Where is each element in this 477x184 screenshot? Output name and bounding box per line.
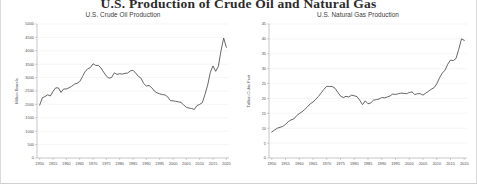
x-tick-label: 2005	[419, 161, 428, 166]
y-tick-label: 40	[262, 36, 267, 41]
y-axis-title: Million Barrels	[14, 78, 19, 104]
y-tick-label: 5	[264, 141, 266, 146]
y-tick-label: 1500	[25, 115, 34, 120]
x-tick-label: 1980	[115, 161, 124, 166]
y-tick-label: 2000	[25, 102, 34, 107]
chart-title-natural-gas: U.S. Natural Gas Production	[239, 11, 477, 18]
series-line	[272, 39, 465, 132]
x-tick-label: 1990	[142, 161, 151, 166]
y-axis-title: Trillion Cubic Feet	[246, 74, 251, 108]
x-tick-label: 1995	[391, 161, 400, 166]
x-tick-label: 1990	[377, 161, 386, 166]
y-tick-label: 30	[262, 66, 267, 71]
chart-panel-crude-oil: U.S. Crude Oil Production 05001000150020…	[7, 11, 239, 184]
x-tick-label: 1970	[89, 161, 98, 166]
chart-natural-gas: 0510152025303540451950195519601965197019…	[239, 18, 477, 180]
x-tick-label: 2000	[405, 161, 414, 166]
x-tick-label: 1955	[49, 161, 58, 166]
chart-crude-oil: 0500100015002000250030003500400045005000…	[7, 18, 239, 180]
x-tick-label: 2010	[432, 161, 441, 166]
x-tick-label: 1975	[102, 161, 111, 166]
x-tick-label: 2015	[209, 161, 218, 166]
chart-title-crude-oil: U.S. Crude Oil Production	[7, 11, 239, 18]
x-tick-label: 1995	[155, 161, 164, 166]
y-tick-label: 15	[262, 111, 266, 116]
figure-root: U.S. Production of Crude Oil and Natural…	[0, 0, 477, 184]
y-tick-label: 5000	[25, 21, 34, 26]
x-tick-label: 1970	[322, 161, 331, 166]
y-tick-label: 2500	[25, 88, 34, 93]
x-tick-label: 2010	[195, 161, 204, 166]
series-line	[40, 38, 227, 109]
y-tick-label: 0	[264, 155, 267, 160]
x-tick-label: 1985	[364, 161, 373, 166]
y-tick-label: 10	[262, 126, 267, 131]
chart-panel-natural-gas: U.S. Natural Gas Production 051015202530…	[239, 11, 477, 184]
y-tick-label: 4000	[25, 48, 34, 53]
x-tick-label: 1980	[350, 161, 359, 166]
y-tick-label: 35	[262, 51, 266, 56]
x-tick-label: 2005	[182, 161, 191, 166]
x-tick-label: 2020	[460, 161, 469, 166]
x-tick-label: 1965	[75, 161, 84, 166]
x-tick-label: 1955	[281, 161, 290, 166]
y-tick-label: 20	[262, 96, 267, 101]
x-tick-label: 2000	[169, 161, 178, 166]
y-tick-label: 4500	[25, 35, 34, 40]
x-tick-label: 1960	[295, 161, 304, 166]
y-tick-label: 0	[32, 155, 35, 160]
y-tick-label: 500	[28, 142, 35, 147]
y-tick-label: 25	[262, 81, 266, 86]
x-tick-label: 1975	[336, 161, 345, 166]
x-tick-label: 1960	[62, 161, 71, 166]
x-tick-label: 2015	[446, 161, 455, 166]
y-tick-label: 1000	[25, 129, 34, 134]
x-tick-label: 1965	[309, 161, 318, 166]
x-tick-label: 2020	[222, 161, 231, 166]
y-tick-label: 45	[262, 21, 266, 26]
y-tick-label: 3500	[25, 62, 34, 67]
x-tick-label: 1950	[35, 161, 44, 166]
y-tick-label: 3000	[25, 75, 34, 80]
x-tick-label: 1985	[129, 161, 138, 166]
x-tick-label: 1950	[267, 161, 276, 166]
